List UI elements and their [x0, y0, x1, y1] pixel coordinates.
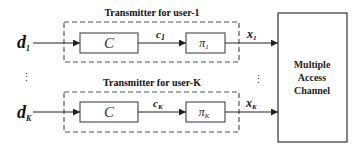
- coded-c1: c1: [156, 28, 165, 42]
- user-k-chain: Transmitter for user-K dK C cK πK xK: [17, 77, 278, 132]
- input-d1: d1: [17, 32, 30, 53]
- channel-label-line-1: Multiple: [294, 59, 331, 70]
- user-1-group-label: Transmitter for user-1: [104, 7, 199, 18]
- output-xk: xK: [245, 96, 258, 111]
- output-x1: x1: [246, 27, 257, 42]
- coded-ck: cK: [153, 97, 164, 111]
- channel-label-line-2: Access: [298, 72, 326, 83]
- channel-label-line-3: Channel: [294, 85, 330, 96]
- input-dk: dK: [17, 102, 32, 123]
- ellipsis-inputs: ⋮: [21, 71, 32, 83]
- user-k-group-label: Transmitter for user-K: [103, 77, 201, 88]
- transmitter-diagram: Transmitter for user-1 d1 C c1 π1 x1 ⋮ ⋮…: [0, 0, 360, 149]
- encoder-label-1: C: [104, 35, 115, 51]
- encoder-label-k: C: [104, 104, 115, 120]
- ellipsis-outputs: ⋮: [253, 73, 264, 85]
- multiple-access-channel: Multiple Access Channel: [278, 13, 347, 142]
- user-1-chain: Transmitter for user-1 d1 C c1 π1 x1: [17, 7, 278, 62]
